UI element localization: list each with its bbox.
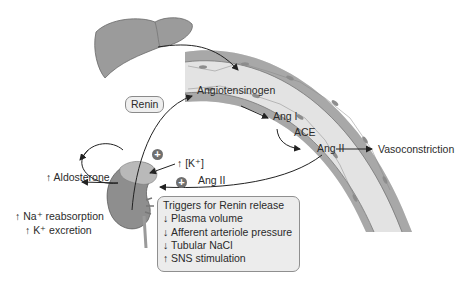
trigger-item: ↑SNS stimulation xyxy=(163,252,294,265)
stimulation-plus-icon: + xyxy=(152,149,163,160)
ang2-feedback-label: Ang II xyxy=(198,174,225,186)
ang1-label: Ang I xyxy=(273,110,298,122)
decrease-arrow-icon: ↓ xyxy=(163,226,171,239)
ang2-vessel-label: Ang II xyxy=(317,142,344,154)
decrease-arrow-icon: ↓ xyxy=(163,239,171,252)
raas-diagram: Renin Angiotensinogen Ang I ACE Ang II V… xyxy=(0,0,470,286)
renin-triggers-box: Triggers for Renin release ↓Plasma volum… xyxy=(157,196,300,272)
sodium-reabsorption-label: ↑ Na⁺ reabsorption xyxy=(15,210,104,222)
trigger-item: ↓Afferent arteriole pressure xyxy=(163,226,294,239)
trigger-item: ↓Plasma volume xyxy=(163,212,294,225)
liver xyxy=(95,18,193,78)
renin-label: Renin xyxy=(125,96,164,113)
trigger-item: ↓Tubular NaCl xyxy=(163,239,294,252)
decrease-arrow-icon: ↓ xyxy=(163,212,171,225)
triggers-title: Triggers for Renin release xyxy=(163,199,294,212)
aldosterone-label: ↑ Aldosterone xyxy=(46,171,110,183)
potassium-concentration-label: ↑ [K⁺] xyxy=(177,157,204,169)
stimulation-plus-icon: + xyxy=(176,177,187,188)
increase-arrow-icon: ↑ xyxy=(163,252,171,265)
angiotensinogen-label: Angiotensinogen xyxy=(197,84,275,96)
potassium-excretion-label: ↑ K⁺ excretion xyxy=(25,224,92,236)
vasoconstriction-label: Vasoconstriction xyxy=(378,143,454,155)
ace-label: ACE xyxy=(294,126,316,138)
